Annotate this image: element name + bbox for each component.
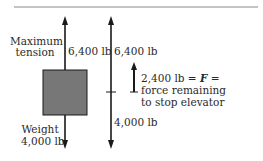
net-force-value: 2,400 lb = <box>141 72 197 84</box>
net-force-equation: 2,400 lb = F = <box>141 73 220 84</box>
net-force-desc-line2: to stop elevator <box>141 97 224 108</box>
weight-label: Weight <box>18 124 62 135</box>
net-force-arrow-icon <box>130 62 138 92</box>
tension-value-right: 6,400 lb <box>114 46 157 57</box>
net-force-eq: = <box>211 72 220 84</box>
max-tension-line2: tension <box>10 47 60 58</box>
elevator-box <box>43 70 87 115</box>
net-force-symbol: F <box>200 72 207 84</box>
combined-force-line-icon <box>106 16 116 149</box>
weight-value-right: 4,000 lb <box>114 117 157 128</box>
net-force-desc-line1: force remaining <box>141 85 226 96</box>
weight-value-left: 4,000 lb <box>21 136 64 147</box>
max-tension-label: Maximum tension <box>10 36 60 58</box>
tension-value-left: 6,400 lb <box>68 46 111 57</box>
